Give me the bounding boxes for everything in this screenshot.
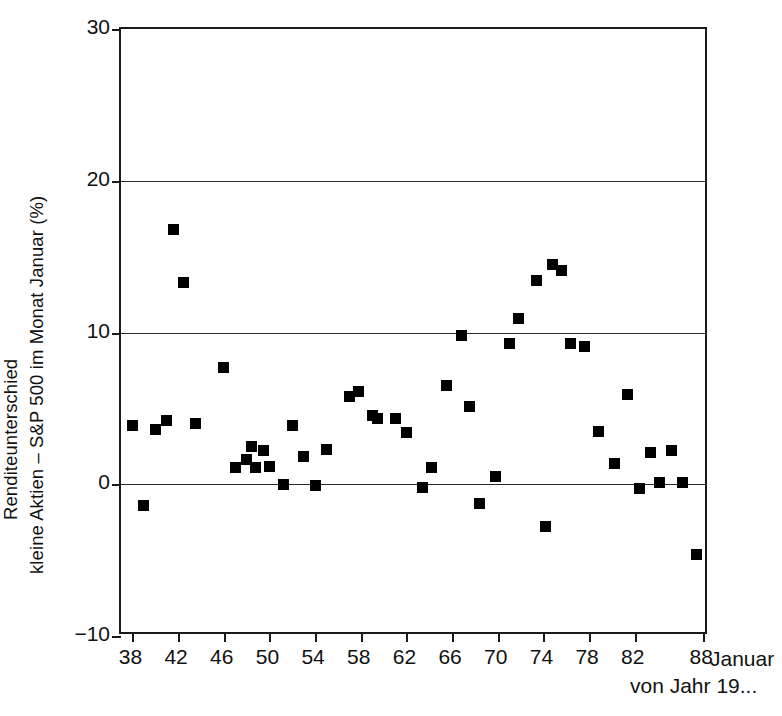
y-tick-label-30: 30 [58, 16, 110, 37]
data-point [565, 338, 576, 349]
data-point [372, 413, 383, 424]
gridline-y-0 [121, 484, 705, 485]
data-point [264, 461, 275, 472]
y-axis-title-line-2: kleine Aktien – S&P 500 im Monat Januar … [26, 196, 48, 574]
x-tick-mark-70 [498, 632, 500, 642]
data-point [474, 498, 485, 509]
data-point [417, 482, 428, 493]
gridline-y-10 [121, 333, 705, 334]
x-tick-label-50: 50 [243, 646, 291, 667]
data-point [138, 500, 149, 511]
data-point [654, 477, 665, 488]
x-tick-mark-58 [361, 632, 363, 642]
data-point [246, 441, 257, 452]
data-point [218, 362, 229, 373]
data-point [287, 420, 298, 431]
data-point [441, 380, 452, 391]
y-tick-mark-10 [112, 333, 121, 335]
data-point [278, 479, 289, 490]
data-point [677, 477, 688, 488]
data-point [178, 277, 189, 288]
x-tick-label-82: 82 [609, 646, 657, 667]
y-tick-mark-30 [112, 29, 121, 31]
data-point [531, 275, 542, 286]
y-tick-label-10: 10 [58, 320, 110, 341]
x-tick-label-70: 70 [472, 646, 520, 667]
y-tick-mark--10 [112, 636, 121, 638]
plot-area [119, 27, 707, 634]
x-tick-label-66: 66 [426, 646, 474, 667]
scatter-chart-figure: Renditeunterschied kleine Aktien – S&P 5… [0, 0, 782, 716]
data-point [127, 420, 138, 431]
data-point [556, 265, 567, 276]
x-tick-label-38: 38 [106, 646, 154, 667]
x-tick-label-62: 62 [380, 646, 428, 667]
x-axis-caption-line-1: Januar [710, 647, 774, 670]
x-tick-mark-78 [589, 632, 591, 642]
y-axis-title-line-1: Renditeunterschied [0, 359, 22, 520]
data-point [250, 462, 261, 473]
data-point [593, 426, 604, 437]
data-point [353, 386, 364, 397]
data-point [258, 445, 269, 456]
x-tick-label-46: 46 [198, 646, 246, 667]
data-point [190, 418, 201, 429]
data-point [666, 445, 677, 456]
x-tick-mark-46 [224, 632, 226, 642]
data-point [513, 313, 524, 324]
data-point [490, 471, 501, 482]
data-point [321, 444, 332, 455]
x-axis-caption: Januar von Jahr 19... [710, 646, 774, 672]
x-tick-mark-62 [406, 632, 408, 642]
y-tick-label-20: 20 [58, 168, 110, 189]
y-axis-tick-labels: −100102030 [58, 0, 110, 716]
data-point [230, 462, 241, 473]
x-tick-mark-88 [703, 632, 705, 642]
data-point [504, 338, 515, 349]
data-point [310, 480, 321, 491]
x-axis-caption-line-2: von Jahr 19... [630, 673, 757, 699]
data-point [456, 330, 467, 341]
x-tick-label-54: 54 [289, 646, 337, 667]
data-point [298, 451, 309, 462]
x-tick-mark-54 [315, 632, 317, 642]
x-tick-label-74: 74 [517, 646, 565, 667]
y-tick-mark-20 [112, 181, 121, 183]
data-point [168, 224, 179, 235]
x-tick-label-42: 42 [152, 646, 200, 667]
y-tick-label--10: −10 [58, 623, 110, 644]
data-point [161, 415, 172, 426]
data-point [622, 389, 633, 400]
data-point [645, 447, 656, 458]
x-tick-mark-42 [178, 632, 180, 642]
y-tick-label-0: 0 [58, 471, 110, 492]
data-point [426, 462, 437, 473]
data-point [464, 401, 475, 412]
x-tick-mark-66 [452, 632, 454, 642]
data-point [150, 424, 161, 435]
x-tick-label-58: 58 [335, 646, 383, 667]
data-point [691, 549, 702, 560]
data-point [579, 341, 590, 352]
y-tick-mark-0 [112, 484, 121, 486]
x-tick-mark-50 [269, 632, 271, 642]
data-point [540, 521, 551, 532]
x-tick-mark-38 [132, 632, 134, 642]
data-point [390, 413, 401, 424]
data-point [634, 483, 645, 494]
y-axis-title: Renditeunterschied kleine Aktien – S&P 5… [0, 0, 62, 640]
x-tick-label-78: 78 [563, 646, 611, 667]
x-tick-mark-74 [543, 632, 545, 642]
gridline-y-20 [121, 181, 705, 182]
data-point [401, 427, 412, 438]
x-tick-mark-82 [635, 632, 637, 642]
data-point [609, 458, 620, 469]
